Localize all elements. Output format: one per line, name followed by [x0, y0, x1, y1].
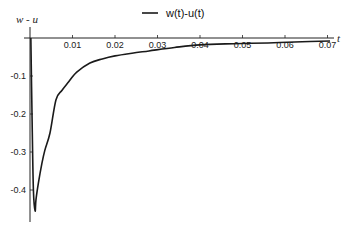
y-tick-label: -0.1: [10, 71, 26, 81]
x-tick-label: 0.02: [106, 40, 124, 50]
y-axis-label: w - u: [16, 13, 39, 25]
y-tick-label: -0.2: [10, 109, 26, 119]
legend: w(t)-u(t): [142, 7, 205, 19]
y-tick-label: -0.3: [10, 147, 26, 157]
y-tick-label: -0.4: [10, 185, 26, 195]
series-line-w-minus-u: [31, 38, 330, 211]
line-chart: w(t)-u(t) w - u t 0.010.020.030.040.050.…: [0, 0, 343, 228]
x-axis-label: t: [337, 32, 341, 44]
x-tick-label: 0.01: [64, 40, 82, 50]
legend-label: w(t)-u(t): [165, 7, 205, 19]
x-tick-label: 0.05: [234, 40, 252, 50]
